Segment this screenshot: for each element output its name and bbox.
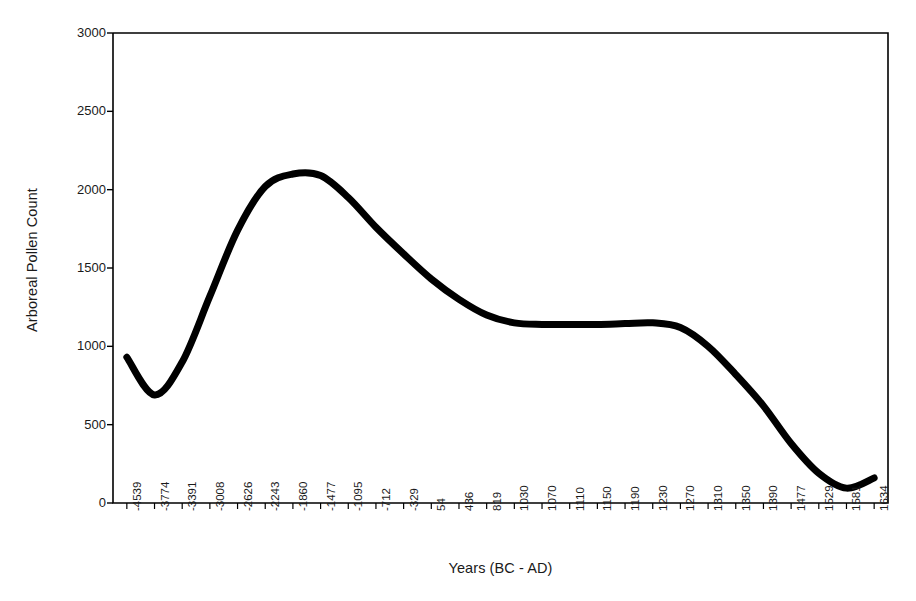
y-axis-title: Arboreal Pollen Count bbox=[24, 150, 40, 370]
x-axis-tick-label: -4539 bbox=[132, 482, 144, 511]
x-axis-tick-label: -3008 bbox=[215, 482, 227, 511]
x-axis-tick-label: -1477 bbox=[326, 482, 338, 511]
y-axis-tick-label: 3000 bbox=[54, 26, 106, 39]
x-axis-tick-labels: -4539-3774-3391-3008-2626-2243-1860-1477… bbox=[113, 503, 888, 563]
x-axis-tick-label: -712 bbox=[381, 488, 393, 511]
x-axis-tick-label: 819 bbox=[492, 492, 504, 511]
y-axis-tick-label: 2500 bbox=[54, 104, 106, 117]
x-axis-tick-label: 1581 bbox=[851, 485, 863, 511]
y-axis-tick-label: 500 bbox=[54, 418, 106, 431]
x-axis-tick-label: 1270 bbox=[685, 485, 697, 511]
x-axis-tick-label: -1095 bbox=[353, 482, 365, 511]
x-axis-tick-label: -329 bbox=[409, 488, 421, 511]
x-axis-tick-label: -3774 bbox=[160, 482, 172, 511]
x-axis-tick-label: 1030 bbox=[519, 485, 531, 511]
x-axis-tick-label: 54 bbox=[436, 498, 448, 511]
x-axis-tick-label: 1477 bbox=[796, 485, 808, 511]
x-axis-tick-label: 436 bbox=[464, 492, 476, 511]
y-axis-tick-label: 2000 bbox=[54, 183, 106, 196]
x-axis-tick-label: 1634 bbox=[879, 485, 891, 511]
x-axis-tick-label: 1310 bbox=[713, 485, 725, 511]
x-axis-tick-label: 1110 bbox=[575, 487, 587, 511]
x-axis-tick-label: -2626 bbox=[243, 482, 255, 511]
x-axis-tick-label: 1230 bbox=[658, 485, 670, 511]
y-axis-tick-label: 1000 bbox=[54, 339, 106, 352]
y-axis-tick-labels: 050010001500200025003000 bbox=[50, 0, 106, 601]
pollen-count-line-chart: Arboreal Pollen Count 050010001500200025… bbox=[0, 0, 916, 601]
x-axis-tick-label: -3391 bbox=[187, 482, 199, 511]
x-axis-tick-label: -2243 bbox=[270, 482, 282, 511]
x-axis-tick-label: 1350 bbox=[741, 485, 753, 511]
x-axis-tick-label: 1150 bbox=[602, 486, 614, 511]
x-axis-tick-label: -1860 bbox=[298, 482, 310, 511]
x-axis-tick-label: 1390 bbox=[768, 485, 780, 511]
x-axis-title: Years (BC - AD) bbox=[113, 560, 888, 576]
y-axis-tick-label: 1500 bbox=[54, 261, 106, 274]
x-axis-tick-label: 1190 bbox=[630, 486, 642, 511]
x-axis-tick-label: 1070 bbox=[547, 485, 559, 511]
x-axis-tick-label: 1529 bbox=[824, 485, 836, 511]
y-axis-tick-label: 0 bbox=[54, 496, 106, 509]
